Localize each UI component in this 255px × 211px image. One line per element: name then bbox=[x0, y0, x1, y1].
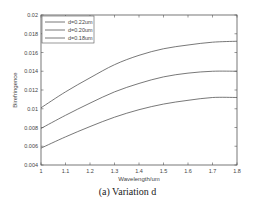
figure-caption: (a) Variation d bbox=[0, 186, 255, 197]
y-tick-label: 0.008 bbox=[24, 125, 38, 131]
y-tick-label: 0.016 bbox=[24, 50, 38, 56]
x-tick-label: 1.6 bbox=[184, 168, 192, 174]
legend-label: d=0.18um bbox=[68, 35, 93, 41]
legend: d=0.22umd=0.20umd=0.18um bbox=[42, 16, 94, 43]
y-tick-label: 0.004 bbox=[24, 162, 38, 168]
legend-label: d=0.22um bbox=[68, 19, 93, 25]
series-line-1 bbox=[41, 71, 237, 128]
x-tick-label: 1.5 bbox=[160, 168, 168, 174]
x-tick-label: 1.2 bbox=[86, 168, 94, 174]
x-axis-label: Wavelength/um bbox=[118, 176, 159, 182]
x-tick-label: 1.7 bbox=[209, 168, 217, 174]
y-tick-label: 0.014 bbox=[24, 68, 38, 74]
x-tick-label: 1.8 bbox=[233, 168, 241, 174]
y-tick-label: 0.012 bbox=[24, 87, 38, 93]
legend-label: d=0.20um bbox=[68, 27, 93, 33]
data-series bbox=[41, 41, 237, 148]
birefringence-line-chart: 0.0040.0060.0080.010.0120.0140.0160.0180… bbox=[0, 0, 255, 185]
y-axis-label: Birefringence bbox=[12, 72, 18, 108]
y-tick-label: 0.006 bbox=[24, 143, 38, 149]
x-tick-label: 1.4 bbox=[135, 168, 143, 174]
y-tick-label: 0.01 bbox=[27, 106, 38, 112]
y-tick-label: 0.02 bbox=[27, 12, 38, 18]
x-tick-label: 1 bbox=[39, 168, 42, 174]
x-tick-label: 1.1 bbox=[62, 168, 70, 174]
x-tick-label: 1.3 bbox=[111, 168, 119, 174]
series-line-2 bbox=[41, 97, 237, 148]
y-tick-label: 0.018 bbox=[24, 31, 38, 37]
